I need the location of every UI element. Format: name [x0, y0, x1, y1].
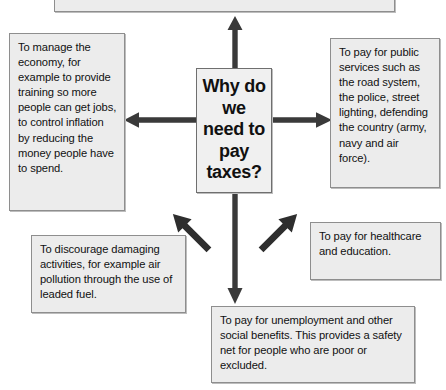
branch-box-top[interactable]	[54, 0, 395, 12]
tax-mind-map-diagram: To manage the economy, for example to pr…	[0, 0, 446, 390]
center-node-why-pay-taxes[interactable]: Why do we need to pay taxes?	[196, 68, 272, 193]
branch-box-healthcare-education[interactable]: To pay for healthcare and education.	[310, 222, 441, 280]
branch-box-unemployment-social-benefits[interactable]: To pay for unemployment and other social…	[211, 306, 415, 383]
arrow-left	[122, 110, 200, 130]
branch-box-public-services[interactable]: To pay for public services such as the r…	[330, 38, 440, 188]
arrow-down	[226, 190, 244, 308]
arrow-right	[268, 110, 334, 130]
arrow-up	[226, 12, 244, 72]
branch-box-manage-economy[interactable]: To manage the economy, for example to pr…	[9, 33, 125, 211]
branch-box-discourage-damaging-activities[interactable]: To discourage damaging activities, for e…	[31, 235, 186, 313]
